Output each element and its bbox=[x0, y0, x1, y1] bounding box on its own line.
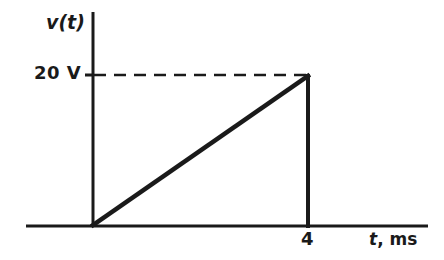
y-axis-label: v(t) bbox=[46, 13, 85, 32]
x-axis-unit: , ms bbox=[377, 229, 417, 249]
waveform-figure: v(t) 20 V 4 t, ms bbox=[0, 0, 444, 260]
x-axis-variable: t bbox=[369, 229, 377, 249]
x-axis-tick-label: 4 bbox=[301, 230, 314, 248]
ramp-segment bbox=[93, 76, 308, 225]
y-axis-tick-label: 20 V bbox=[34, 64, 81, 82]
x-axis-label: t, ms bbox=[369, 231, 417, 248]
waveform-plot bbox=[0, 0, 444, 260]
